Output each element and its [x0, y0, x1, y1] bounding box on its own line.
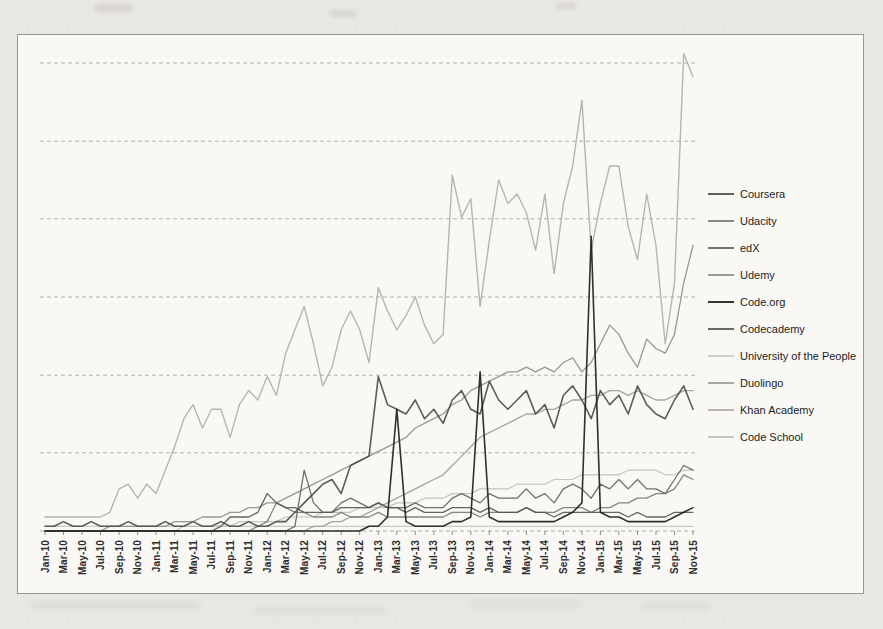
x-tick-label: Nov-11 [243, 540, 254, 574]
x-tick-label: Jul-12 [317, 540, 328, 570]
x-tick-label: Jul-15 [651, 540, 662, 570]
legend-item-code-school: Code School [708, 423, 856, 450]
x-tick-label: Nov-13 [465, 540, 476, 575]
x-tick-label: Sep-10 [114, 540, 125, 574]
x-tick-label: May-12 [299, 540, 310, 575]
x-tick-label: May-10 [77, 540, 88, 575]
x-tick-label: Mar-14 [502, 540, 513, 574]
x-tick-label: Nov-10 [132, 540, 143, 575]
x-tick-label: Mar-10 [58, 540, 69, 574]
legend-line-swatch [708, 247, 734, 249]
x-tick-label: Jan-13 [373, 540, 384, 573]
x-tick-label: Nov-14 [576, 540, 587, 575]
x-tick-label: Sep-15 [669, 540, 680, 574]
x-tick-label: Mar-15 [613, 540, 624, 574]
legend-item-udemy: Udemy [708, 261, 856, 288]
legend-label: Udacity [740, 215, 777, 227]
x-tick-label: Jul-13 [428, 540, 439, 570]
legend-item-edx: edX [708, 234, 856, 261]
legend-line-swatch [708, 328, 734, 330]
legend-label: edX [740, 242, 760, 254]
x-tick-label: May-11 [188, 540, 199, 575]
x-tick-label: Sep-12 [336, 540, 347, 574]
x-tick-label: Jan-10 [40, 540, 51, 573]
legend-item-code-org: Code.org [708, 288, 856, 315]
x-tick-label: May-13 [410, 540, 421, 575]
x-tick-label: Jan-12 [262, 540, 273, 573]
x-tick-label: Sep-13 [447, 540, 458, 574]
legend-label: Code.org [740, 296, 785, 308]
legend-label: Codecademy [740, 323, 805, 335]
legend-item-university-of-the-people: University of the People [708, 342, 856, 369]
x-tick-label: Nov-12 [354, 540, 365, 575]
x-tick-label: Mar-13 [391, 540, 402, 574]
x-tick-label: Mar-12 [280, 540, 291, 574]
x-tick-label: Mar-11 [169, 540, 180, 573]
x-tick-label: Sep-11 [225, 540, 236, 574]
x-tick-label: Jul-11 [206, 540, 217, 570]
legend-line-swatch [708, 436, 734, 438]
legend-line-swatch [708, 220, 734, 222]
legend-line-swatch [708, 355, 734, 357]
legend-item-khan-academy: Khan Academy [708, 396, 856, 423]
x-tick-label: Jan-14 [484, 540, 495, 573]
scanned-figure-page: Jan-10Mar-10May-10Jul-10Sep-10Nov-10Jan-… [0, 0, 883, 629]
x-tick-label: May-15 [632, 540, 643, 575]
legend-line-swatch [708, 301, 734, 303]
legend-label: Udemy [740, 269, 775, 281]
legend-item-duolingo: Duolingo [708, 369, 856, 396]
legend-item-codecademy: Codecademy [708, 315, 856, 342]
x-tick-label: May-14 [521, 540, 532, 575]
legend-line-swatch [708, 274, 734, 276]
legend-line-swatch [708, 409, 734, 411]
legend-label: University of the People [740, 350, 856, 362]
legend-label: Code School [740, 431, 803, 443]
x-tick-label: Sep-14 [558, 540, 569, 574]
x-tick-label: Jan-15 [595, 540, 606, 573]
legend-item-udacity: Udacity [708, 207, 856, 234]
legend-label: Coursera [740, 188, 785, 200]
x-tick-label: Jul-10 [95, 540, 106, 570]
legend-label: Khan Academy [740, 404, 814, 416]
legend-line-swatch [708, 193, 734, 195]
x-tick-label: Jul-14 [539, 540, 550, 570]
x-tick-label: Jan-11 [151, 540, 162, 573]
x-tick-label: Nov-15 [688, 540, 699, 575]
legend-item-coursera: Coursera [708, 180, 856, 207]
legend-line-swatch [708, 382, 734, 384]
chart-legend: Coursera Udacity edX Udemy Code.org Code… [708, 180, 856, 450]
legend-label: Duolingo [740, 377, 783, 389]
